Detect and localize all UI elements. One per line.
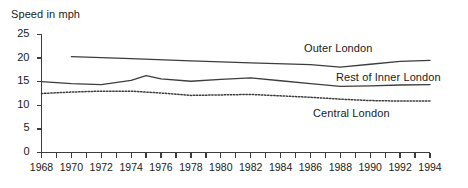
x-axis-tick-label: 1992: [383, 161, 417, 173]
series-line-central-london: [42, 91, 431, 101]
y-axis-tick-label: 25: [8, 27, 30, 39]
x-axis-tick-label: 1994: [413, 161, 447, 173]
y-axis-tick-label: 5: [8, 121, 30, 133]
y-axis-tick-label: 10: [8, 98, 30, 110]
y-axis-tick-label: 0: [8, 145, 30, 157]
series-label-central-london: Central London: [313, 107, 390, 119]
series-label-outer-london: Outer London: [304, 42, 372, 54]
x-axis-tick-label: 1986: [293, 161, 327, 173]
x-axis-tick-label: 1976: [144, 161, 178, 173]
x-axis-tick-label: 1970: [54, 161, 88, 173]
line-chart: Speed in mph Outer London Rest of Inner …: [0, 0, 468, 188]
x-axis-tick-label: 1980: [204, 161, 238, 173]
x-axis-tick-label: 1974: [114, 161, 148, 173]
x-axis-tick-label: 1990: [353, 161, 387, 173]
series-label-rest-of-inner-london: Rest of Inner London: [336, 71, 441, 83]
y-axis-tick-label: 15: [8, 74, 30, 86]
y-axis-tick-label: 20: [8, 51, 30, 63]
series-line-outer-london: [71, 57, 430, 67]
x-axis-tick-label: 1984: [264, 161, 298, 173]
